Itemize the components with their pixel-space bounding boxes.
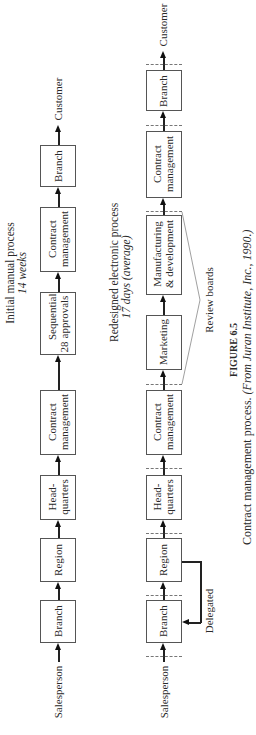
caption-text: Contract management process. — [240, 397, 254, 545]
arrow-up-icon — [160, 51, 166, 58]
label-line-1: Contract — [151, 133, 163, 195]
electronic-step-contract-management-2-label: Contract management — [151, 133, 175, 195]
arrow-up-icon — [160, 198, 166, 205]
review-boards-label: Review boards — [203, 260, 215, 340]
figure-caption: Contract management process. (From Juran… — [241, 165, 253, 545]
arrow-up-icon — [160, 111, 166, 118]
review-boards-bracket — [0, 0, 256, 735]
electronic-step-branch-final-label: Branch — [157, 72, 169, 110]
connector-line — [163, 205, 165, 215]
stage-divider — [146, 125, 182, 126]
label-line-2: management — [163, 133, 175, 195]
electronic-end-label: Customer — [157, 2, 169, 48]
figure-number: FIGURE 6.5 — [228, 245, 240, 455]
caption-source: (From Juran Institute, Inc., 1990.) — [240, 230, 254, 395]
stage-divider — [146, 64, 182, 65]
stage-divider — [146, 211, 182, 212]
